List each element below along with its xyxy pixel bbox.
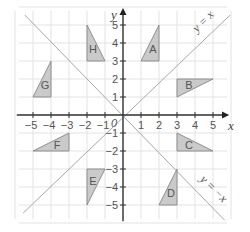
triangle-label: H [89,43,97,55]
triangle-label: F [54,139,61,151]
y-tick-label: −5 [105,199,118,211]
y-tick-label: −3 [105,163,118,175]
line-label-y-equals-neg-x: y = −x [197,171,231,205]
x-tick-label: −4 [43,119,56,131]
coordinate-diagram: ABCDEFGH −5−4−3−2−112345−5−4−3−2−1123450… [0,0,250,232]
triangle-label: G [41,79,50,91]
origin-label: 0 [111,117,118,129]
y-axis-arrow-icon [120,8,127,15]
triangle-label: D [167,187,175,199]
y-tick-label: 1 [112,91,118,103]
y-axis-label: y [109,7,117,22]
y-tick-label: −4 [105,181,118,193]
y-tick-label: −2 [105,145,118,157]
coordinate-plane: ABCDEFGH −5−4−3−2−112345−5−4−3−2−1123450… [0,0,250,232]
x-tick-label: −3 [61,119,74,131]
axes: −5−4−3−2−112345−5−4−3−2−1123450xy [17,7,234,221]
x-tick-label: 3 [174,119,180,131]
x-axis-label: x [227,118,234,133]
triangle-label: B [185,79,192,91]
y-tick-label: 4 [112,37,118,49]
x-tick-label: −2 [79,119,92,131]
x-tick-label: 4 [192,119,198,131]
triangle-label: C [185,139,193,151]
x-tick-label: 5 [210,119,216,131]
triangle-label: E [89,175,96,187]
reflection-lines [23,15,230,220]
triangle-label: A [149,43,157,55]
x-tick-label: 2 [156,119,162,131]
x-tick-label: 1 [138,119,144,131]
x-tick-label: −5 [25,119,38,131]
y-tick-label: 3 [112,55,118,67]
y-tick-label: 2 [112,73,118,85]
